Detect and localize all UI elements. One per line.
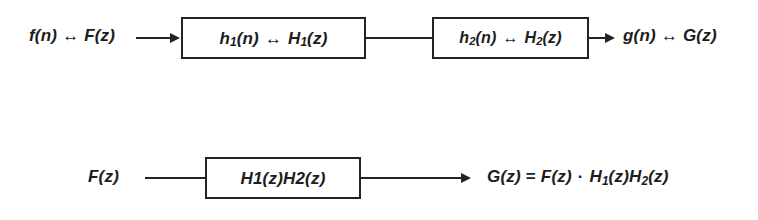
equation-transfer-1-arg: (z) bbox=[609, 167, 629, 186]
bottom-output-equation: G(z)=F(z)·H1(z)H2(z) bbox=[487, 168, 669, 185]
wire-input-to-block1 bbox=[136, 37, 172, 39]
block-h1-label: h1(n)↔H1(z) bbox=[219, 30, 327, 47]
wire-block1-to-block2 bbox=[366, 37, 433, 39]
bottom-input-label: F(z) bbox=[88, 168, 119, 185]
block-h1-z-subscript: 1 bbox=[300, 35, 307, 49]
block-h1[interactable]: h1(n)↔H1(z) bbox=[181, 17, 366, 59]
wire-bottom-block-to-output bbox=[361, 177, 465, 179]
block-h1-time-subscript: 1 bbox=[230, 35, 237, 49]
block-h1-time-arg: (n) bbox=[237, 29, 259, 48]
arrowhead-to-bottom-output bbox=[461, 173, 471, 183]
top-input-label: f(n)↔F(z) bbox=[29, 27, 115, 44]
equation-transfer-2-base: H bbox=[629, 167, 641, 186]
top-input-transform-operator: ↔ bbox=[57, 26, 84, 45]
block-h2[interactable]: h2(n)↔H2(z) bbox=[432, 17, 589, 59]
block-h1-z-base: H bbox=[288, 29, 300, 48]
block-diagram-canvas: f(n)↔F(z) h1(n)↔H1(z) h2(n)↔H2(z) g(n)↔G… bbox=[0, 0, 758, 220]
top-output-transform-operator: ↔ bbox=[656, 26, 683, 45]
top-output-time-domain: g(n) bbox=[623, 26, 656, 45]
arrowhead-into-block1 bbox=[170, 33, 180, 43]
equation-equals-sign: = bbox=[521, 167, 541, 186]
block-h2-label: h2(n)↔H2(z) bbox=[459, 30, 562, 46]
equation-transfer-2-subscript: 2 bbox=[642, 174, 649, 188]
block-h2-time-arg: (n) bbox=[475, 29, 496, 46]
block-h1-transform-operator: ↔ bbox=[259, 29, 288, 48]
block-h2-transform-operator: ↔ bbox=[496, 29, 524, 46]
arrowhead-to-top-output bbox=[605, 33, 615, 43]
equation-multiply-operator: · bbox=[572, 167, 590, 186]
equation-transfer-1-subscript: 1 bbox=[602, 174, 609, 188]
equation-left-side: G(z) bbox=[487, 167, 521, 186]
block-h2-z-base: H bbox=[524, 29, 536, 46]
block-h2-time-base: h bbox=[459, 29, 469, 46]
wire-bottom-input-to-block bbox=[145, 177, 205, 179]
equation-transfer-2-arg: (z) bbox=[648, 167, 668, 186]
equation-transfer-1-base: H bbox=[589, 167, 601, 186]
block-h1h2-combined[interactable]: H1(z)H2(z) bbox=[205, 157, 361, 199]
top-input-time-domain: f(n) bbox=[29, 26, 57, 45]
block-h2-time-subscript: 2 bbox=[469, 35, 475, 47]
block-h1-time-base: h bbox=[219, 29, 230, 48]
block-h2-z-arg: (z) bbox=[542, 29, 561, 46]
block-h2-z-subscript: 2 bbox=[536, 35, 542, 47]
equation-input-term: F(z) bbox=[541, 167, 572, 186]
block-h1h2-label: H1(z)H2(z) bbox=[240, 170, 325, 187]
top-input-z-domain: F(z) bbox=[84, 26, 115, 45]
block-h1-z-arg: (z) bbox=[307, 29, 327, 48]
top-output-z-domain: G(z) bbox=[683, 26, 717, 45]
top-output-label: g(n)↔G(z) bbox=[623, 27, 717, 44]
